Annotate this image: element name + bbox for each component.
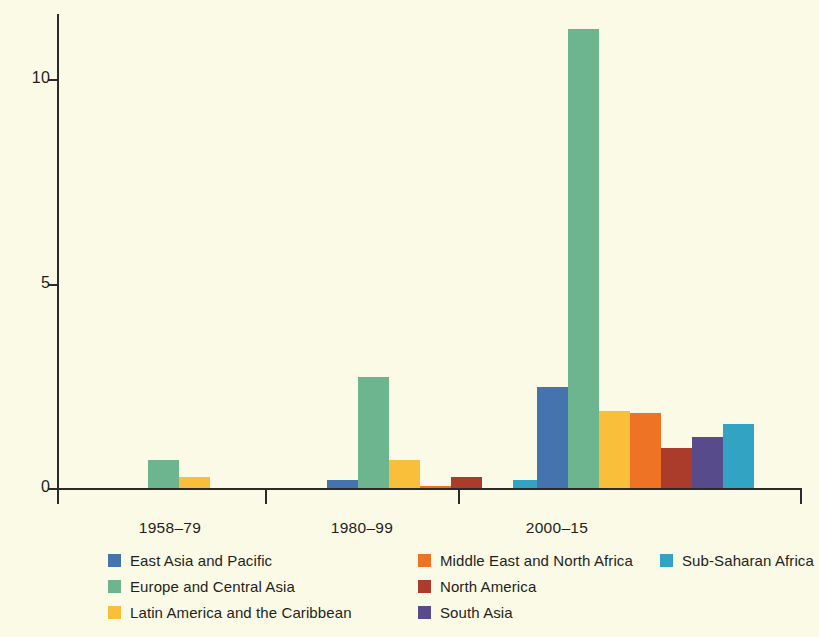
bar: [327, 480, 358, 488]
x-axis-end-tick: [57, 490, 59, 504]
legend-color-swatch: [108, 580, 121, 593]
legend-item-label: Europe and Central Asia: [130, 579, 295, 594]
x-axis-line: [57, 488, 802, 490]
legend-color-swatch: [108, 554, 121, 567]
legend-color-swatch: [418, 554, 431, 567]
x-axis-group-label: 1980–99: [302, 519, 422, 537]
bar: [389, 460, 420, 488]
chart-figure: 0510 1958–791980–992000–15 East Asia and…: [0, 0, 819, 637]
legend-item: Europe and Central Asia: [108, 579, 295, 594]
x-axis-end-tick: [800, 490, 802, 504]
chart-legend: East Asia and PacificEurope and Central …: [108, 553, 798, 623]
bar: [451, 477, 482, 488]
legend-item-label: East Asia and Pacific: [130, 553, 272, 568]
bar: [692, 437, 723, 488]
bar: [358, 377, 389, 488]
x-axis-group-label: 2000–15: [497, 519, 617, 537]
bar: [661, 448, 692, 488]
legend-item: Latin America and the Caribbean: [108, 605, 352, 620]
legend-item: Middle East and North Africa: [418, 553, 633, 568]
legend-item-label: South Asia: [440, 605, 513, 620]
bar: [599, 411, 630, 488]
legend-item: East Asia and Pacific: [108, 553, 272, 568]
bar: [723, 424, 754, 488]
plot-area: 0510 1958–791980–992000–15: [57, 14, 802, 490]
legend-item-label: North America: [440, 579, 536, 594]
x-axis-tick-mark: [458, 490, 460, 504]
y-axis-tick-label: 10: [32, 69, 50, 87]
legend-item-label: Latin America and the Caribbean: [130, 605, 352, 620]
legend-color-swatch: [418, 606, 431, 619]
legend-color-swatch: [418, 580, 431, 593]
x-axis-group-label: 1958–79: [110, 519, 230, 537]
bar: [537, 387, 568, 488]
legend-item-label: Middle East and North Africa: [440, 553, 633, 568]
legend-item-label: Sub-Saharan Africa: [682, 553, 814, 568]
y-axis-tick-label: 5: [41, 274, 50, 292]
x-axis-tick-mark: [265, 490, 267, 504]
bar: [568, 29, 599, 488]
legend-item: Sub-Saharan Africa: [660, 553, 814, 568]
bar-series-container: [59, 14, 802, 488]
y-axis-tick-label: 0: [41, 478, 50, 496]
bar: [630, 413, 661, 488]
legend-color-swatch: [660, 554, 673, 567]
bar: [420, 486, 451, 488]
bar: [179, 477, 210, 488]
legend-item: South Asia: [418, 605, 513, 620]
legend-item: North America: [418, 579, 536, 594]
bar: [148, 460, 179, 488]
legend-color-swatch: [108, 606, 121, 619]
